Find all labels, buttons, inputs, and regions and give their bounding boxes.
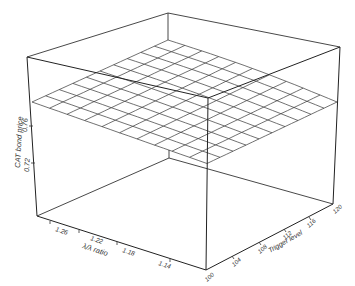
- y-tick-104: 104: [231, 256, 243, 268]
- bounding-box-back: [27, 13, 340, 216]
- surface-plot: 0.76 0.72 CAT bond price 1.26 1.22 1.18 …: [0, 0, 355, 286]
- mesh-line: [168, 40, 337, 102]
- y-tick-100: 100: [204, 271, 216, 283]
- x-tick-1.26: 1.26: [55, 225, 70, 236]
- trigger-level-axis: 100 104 108 112 116 120 Trigger level: [204, 203, 344, 283]
- x-axis-label: λ/λ ratio: [80, 241, 109, 258]
- mesh-line: [154, 46, 324, 108]
- y-tick-116: 116: [306, 217, 318, 228]
- mesh-line: [46, 96, 220, 158]
- y-tick-120: 120: [332, 203, 344, 215]
- z-tick-0.72: 0.72: [23, 158, 31, 172]
- x-tick-1.18: 1.18: [122, 246, 137, 257]
- ratio-axis: 1.26 1.22 1.18 1.14 λ/λ ratio: [50, 221, 172, 270]
- wireframe-surface: [32, 40, 337, 164]
